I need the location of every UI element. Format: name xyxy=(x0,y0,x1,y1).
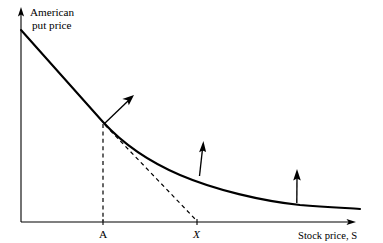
x-tick-label-A: A xyxy=(99,228,108,240)
x-tick-label-X: X xyxy=(192,228,201,240)
y-axis-label-line2: put price xyxy=(32,19,71,31)
intrinsic-value-tangent-line xyxy=(105,125,197,221)
american-put-price-chart: American put price A X Stock price, S xyxy=(0,0,383,243)
arrow-right-curve xyxy=(293,169,301,203)
axes-group xyxy=(18,7,356,225)
put-price-curve-group xyxy=(21,30,360,209)
american-put-price-curve xyxy=(21,30,360,209)
x-axis-label: Stock price, S xyxy=(298,230,357,241)
arrow-at-A xyxy=(104,95,134,124)
figure-container: American put price A X Stock price, S xyxy=(0,0,383,243)
dashed-lines-group xyxy=(103,124,197,221)
y-axis-label-line1: American xyxy=(30,6,75,18)
arrow-mid-curve xyxy=(199,141,206,176)
